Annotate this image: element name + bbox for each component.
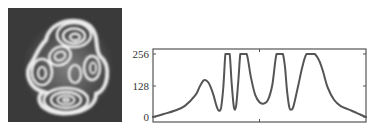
y-tick-label-0: 0 xyxy=(144,111,150,123)
y-axis xyxy=(153,54,366,117)
plot-frame xyxy=(153,49,366,122)
intensity-curve xyxy=(153,54,366,117)
y-tick-label-256: 256 xyxy=(133,48,150,60)
intensity-line-chart: 256 128 0 xyxy=(0,0,375,134)
y-tick-label-128: 128 xyxy=(133,80,150,92)
